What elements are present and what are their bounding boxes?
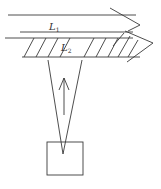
label-l2: L2 — [60, 42, 72, 54]
arrow-beam-l1 — [8, 8, 140, 32]
hatched-arrow-beam-l2 — [5, 31, 153, 62]
label-l1: L1 — [48, 21, 59, 33]
source-box — [47, 142, 83, 175]
upward-arrow-icon — [59, 78, 69, 115]
diagram-canvas: L1 L2 — [0, 0, 161, 189]
hatch-lines — [24, 33, 138, 57]
cone-of-light — [48, 60, 82, 154]
